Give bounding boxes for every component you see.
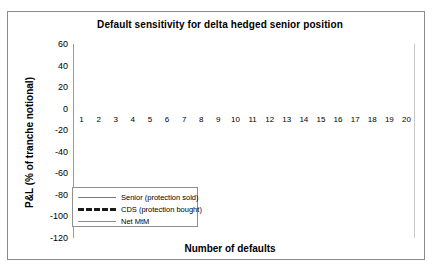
x-tick-label: 2 (92, 115, 106, 124)
x-tick-label: 11 (246, 115, 260, 124)
legend-label: Net MtM (121, 216, 149, 227)
x-tick-label: 12 (263, 115, 277, 124)
x-axis-title: Number of defaults (120, 243, 340, 254)
y-tick-label: 0 (63, 104, 68, 114)
x-tick-label: 5 (143, 115, 157, 124)
chart-title: Default sensitivity for delta hedged sen… (60, 19, 380, 30)
y-axis-tick-labels: 6040200-20-40-60-80-100-120 (28, 44, 68, 238)
y-tick-label: 20 (58, 82, 68, 92)
x-tick-label: 17 (348, 115, 362, 124)
y-tick-label: 40 (58, 61, 68, 71)
x-tick-label: 7 (177, 115, 191, 124)
legend-key-swatch (78, 197, 116, 199)
x-tick-label: 19 (382, 115, 396, 124)
x-tick-label: 3 (109, 115, 123, 124)
legend-key-swatch (78, 221, 116, 223)
x-tick-label: 13 (280, 115, 294, 124)
y-tick-label: 60 (58, 39, 68, 49)
chart-legend: Senior (protection sold)CDS (protection … (72, 187, 198, 227)
x-tick-label: 6 (160, 115, 174, 124)
x-tick-label: 16 (331, 115, 345, 124)
x-axis-tick-labels: 1234567891011121314151617181920 (73, 115, 415, 127)
y-tick-label: -40 (55, 147, 68, 157)
x-tick-label: 15 (314, 115, 328, 124)
x-tick-label: 18 (365, 115, 379, 124)
y-tick-label: -20 (55, 125, 68, 135)
x-tick-label: 10 (228, 115, 242, 124)
legend-label: Senior (protection sold) (121, 192, 199, 203)
x-tick-label: 20 (399, 115, 413, 124)
y-tick-label: -80 (55, 190, 68, 200)
legend-item[interactable]: Net MtM (73, 215, 199, 228)
x-tick-label: 1 (75, 115, 89, 124)
x-tick-label: 9 (211, 115, 225, 124)
y-tick-label: -100 (50, 211, 68, 221)
x-tick-label: 8 (194, 115, 208, 124)
y-tick-label: -120 (50, 233, 68, 243)
chart-figure: Default sensitivity for delta hedged sen… (0, 0, 433, 269)
legend-key-swatch (78, 208, 116, 211)
x-tick-label: 4 (126, 115, 140, 124)
x-tick-label: 14 (297, 115, 311, 124)
y-tick-label: -60 (55, 168, 68, 178)
legend-label: CDS (protection bought) (121, 204, 202, 215)
